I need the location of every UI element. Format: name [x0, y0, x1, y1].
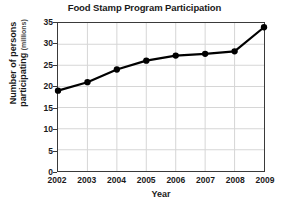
- y-axis-tick-mark: [53, 172, 57, 173]
- plot-area: [57, 22, 265, 172]
- y-axis-tick-label: 25: [31, 60, 53, 70]
- x-axis-title: Year: [57, 189, 265, 199]
- data-point-marker[interactable]: [261, 24, 267, 30]
- data-point-marker[interactable]: [202, 51, 208, 57]
- y-axis-title-line2: participating (millions): [18, 19, 28, 107]
- y-axis-unit: (millions): [20, 19, 27, 50]
- data-point-marker[interactable]: [55, 87, 61, 93]
- y-axis-tick-label: 15: [31, 103, 53, 113]
- data-point-marker[interactable]: [173, 52, 179, 58]
- chart-title: Food Stamp Program Participation: [0, 2, 289, 13]
- y-axis-title-line1: Number of persons: [8, 22, 18, 105]
- y-axis-tick-label: 20: [31, 81, 53, 91]
- data-point-marker[interactable]: [143, 57, 149, 63]
- y-axis-tick-label: 10: [31, 124, 53, 134]
- y-axis-tick-label: 30: [31, 38, 53, 48]
- x-axis-tick-label: 2009: [248, 175, 282, 185]
- data-point-marker[interactable]: [84, 79, 90, 85]
- y-axis-tick-label: 35: [31, 17, 53, 27]
- y-axis-tick-label: 5: [31, 146, 53, 156]
- x-axis-tick-labels: 20022003200420052006200720082009: [57, 175, 265, 187]
- data-point-marker[interactable]: [231, 48, 237, 54]
- data-series-line: [58, 23, 264, 171]
- chart-container: Food Stamp Program Participation Number …: [0, 0, 289, 207]
- y-axis-tick-labels: 05101520253035: [29, 22, 53, 172]
- y-axis-title-line2-text: participating: [18, 53, 28, 107]
- data-point-marker[interactable]: [114, 66, 120, 72]
